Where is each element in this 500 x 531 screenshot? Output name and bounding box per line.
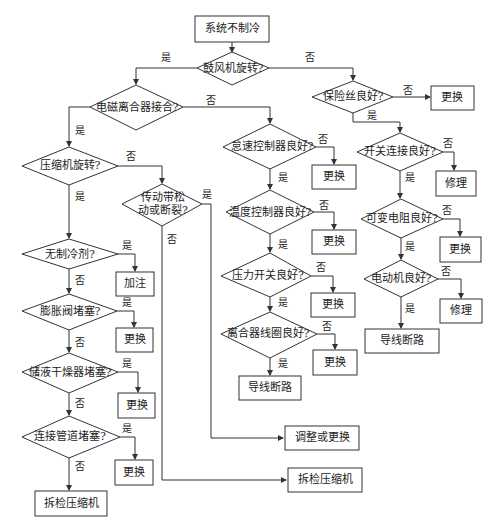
decision-expansion-valve: 膨胀阀堵塞?	[22, 294, 117, 330]
motor-repair-box: 修理	[440, 299, 482, 323]
decision-pressure-switch: 压力开关良好?	[221, 253, 311, 297]
decision-belt: 传动带松 动或断裂?	[122, 184, 202, 226]
svg-text:储液干燥器堵塞?: 储液干燥器堵塞?	[29, 365, 112, 379]
expansion-replace-box: 更换	[116, 328, 153, 352]
flowchart: 系统不制冷 鼓风机旋转? 是 否 保险丝良好? 否 更换 是 开关连接良好? 否…	[0, 0, 500, 531]
label-yes: 是	[122, 423, 132, 434]
svg-text:拆检压缩机: 拆检压缩机	[298, 472, 353, 486]
decision-receiver-dryer: 储液干燥器堵塞?	[22, 353, 118, 393]
label-yes: 是	[202, 189, 212, 200]
decision-idle-controller: 怠速控制器良好?	[223, 124, 316, 169]
start-box: 系统不制冷	[195, 16, 269, 42]
svg-text:更换: 更换	[124, 332, 146, 346]
svg-text:拆检压缩机: 拆检压缩机	[44, 496, 99, 510]
label-yes: 是	[405, 172, 415, 183]
decision-temp-controller: 温度控制器良好?	[226, 190, 314, 234]
label-no: 否	[319, 200, 329, 211]
resistor-replace-box: 更换	[440, 237, 481, 262]
svg-text:更换: 更换	[323, 169, 345, 183]
label-yes: 是	[122, 358, 132, 369]
svg-text:修理: 修理	[445, 176, 467, 190]
svg-text:电动机良好?: 电动机良好?	[371, 271, 432, 285]
svg-text:可变电阻良好?: 可变电阻良好?	[366, 211, 438, 225]
label-no: 否	[403, 85, 413, 96]
svg-text:鼓风机旋转?: 鼓风机旋转?	[203, 61, 264, 75]
svg-text:加注: 加注	[124, 276, 146, 290]
label-no: 否	[441, 266, 451, 277]
decision-compressor: 压缩机旋转?	[22, 147, 118, 185]
label-yes: 是	[278, 239, 288, 250]
decision-clutch-coil: 离合器线圈良好?	[221, 312, 317, 358]
wire-break-box-right: 导线断路	[365, 329, 439, 353]
decision-clutch: 电磁离合器接合?	[90, 85, 183, 130]
coil-replace-box: 更换	[313, 350, 357, 375]
label-no: 否	[126, 151, 136, 162]
label-no: 否	[442, 205, 452, 216]
label-no: 否	[167, 234, 177, 245]
label-yes: 是	[278, 297, 288, 308]
svg-text:导线断路: 导线断路	[380, 333, 424, 347]
svg-text:修理: 修理	[450, 303, 472, 317]
label-no: 否	[316, 262, 326, 273]
svg-text:开关连接良好?: 开关连接良好?	[364, 144, 436, 158]
dryer-replace-box: 更换	[118, 393, 155, 418]
svg-text:更换: 更换	[126, 398, 148, 412]
label-no: 否	[75, 461, 85, 472]
svg-text:无制冷剂?: 无制冷剂?	[45, 247, 95, 261]
label-yes: 是	[405, 303, 415, 314]
idle-replace-box: 更换	[312, 165, 356, 189]
label-yes: 是	[278, 172, 288, 183]
label-yes: 是	[161, 52, 171, 63]
svg-text:压力开关良好?: 压力开关良好?	[232, 268, 304, 282]
decision-connecting-pipe: 连接管道堵塞?	[22, 416, 120, 458]
decision-motor: 电动机良好?	[364, 260, 438, 297]
wire-break-box-left: 导线断路	[239, 376, 301, 400]
label-no: 否	[443, 138, 453, 149]
svg-text:系统不制冷: 系统不制冷	[205, 22, 260, 35]
decision-blower: 鼓风机旋转?	[197, 52, 269, 85]
decision-fuse: 保险丝良好?	[312, 81, 393, 113]
svg-text:更换: 更换	[322, 297, 344, 311]
svg-text:更换: 更换	[324, 355, 346, 369]
svg-text:保险丝良好?: 保险丝良好?	[323, 89, 384, 103]
label-yes: 是	[75, 191, 85, 202]
label-no: 否	[75, 398, 85, 409]
svg-text:温度控制器良好?: 温度控制器良好?	[229, 205, 312, 219]
svg-text:压缩机旋转?: 压缩机旋转?	[40, 158, 101, 172]
svg-text:传动带松: 传动带松	[141, 190, 185, 204]
svg-text:更换: 更换	[441, 90, 463, 104]
svg-text:离合器线圈良好?: 离合器线圈良好?	[227, 326, 310, 340]
label-yes: 是	[75, 125, 85, 136]
svg-text:更换: 更换	[449, 242, 471, 256]
svg-text:更换: 更换	[123, 465, 145, 479]
svg-text:连接管道堵塞?: 连接管道堵塞?	[34, 429, 106, 443]
svg-text:膨胀阀堵塞?: 膨胀阀堵塞?	[40, 304, 101, 318]
fuse-replace-box: 更换	[431, 86, 474, 110]
svg-text:电磁离合器接合?: 电磁离合器接合?	[96, 100, 179, 114]
label-yes: 是	[405, 241, 415, 252]
overhaul-compressor-box-right: 拆检压缩机	[288, 468, 362, 492]
label-no: 否	[322, 321, 332, 332]
svg-text:更换: 更换	[323, 234, 345, 248]
label-no: 否	[206, 95, 216, 106]
pressure-replace-box: 更换	[311, 293, 355, 317]
label-no: 否	[75, 337, 85, 348]
label-yes: 是	[367, 110, 377, 121]
svg-text:怠速控制器良好?: 怠速控制器良好?	[231, 139, 314, 153]
decision-refrigerant: 无制冷剂?	[22, 239, 118, 269]
refill-box: 加注	[116, 272, 154, 296]
pipe-replace-box: 更换	[115, 460, 153, 485]
overhaul-compressor-box-left: 拆检压缩机	[35, 491, 107, 516]
svg-text:调整或更换: 调整或更换	[295, 430, 350, 444]
label-yes: 是	[278, 358, 288, 369]
label-no: 否	[75, 275, 85, 286]
decision-switch: 开关连接良好?	[357, 133, 443, 171]
label-no: 否	[305, 52, 315, 63]
label-yes: 是	[122, 240, 132, 251]
svg-text:导线断路: 导线断路	[248, 380, 292, 394]
label-yes: 是	[122, 297, 132, 308]
label-no: 否	[318, 134, 328, 145]
switch-repair-box: 修理	[436, 171, 476, 196]
temp-replace-box: 更换	[312, 230, 356, 254]
adjust-replace-box: 调整或更换	[285, 426, 359, 450]
